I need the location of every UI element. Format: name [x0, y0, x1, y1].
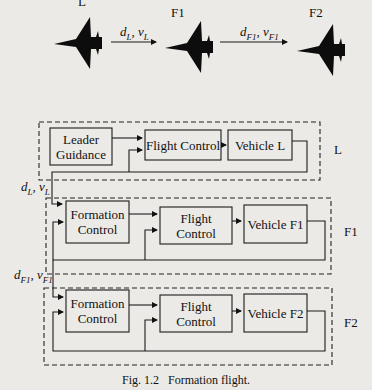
input-label-f2: dF1, vF1 [14, 268, 53, 285]
vehicle-f2-text: Vehicle F2 [244, 294, 307, 332]
group-label-l: L [334, 143, 342, 156]
plane-label-f1: F1 [171, 6, 185, 19]
formation-control-f2-text: FormationControl [66, 290, 129, 332]
plane-label-f2: F2 [309, 6, 323, 19]
group-label-f2: F2 [344, 316, 358, 329]
leader-guidance-text: LeaderGuidance [50, 128, 112, 165]
group-label-f1: F1 [344, 225, 358, 238]
figure-caption: Fig. 1.2 Formation flight. [122, 374, 250, 386]
flight-control-l-text: Flight Control [145, 130, 221, 160]
arrow-label-f1-f2: dF1, vF1 [240, 25, 279, 42]
vehicle-f1-text: Vehicle F1 [244, 205, 307, 243]
formation-control-f1-text: FormationControl [66, 201, 129, 243]
flight-control-f2-text: Flight Control [160, 295, 232, 332]
vehicle-l-text: Vehicle L [228, 130, 292, 160]
plane-label-l: L [78, 0, 86, 8]
arrow-label-l-f1: dL, vL [120, 25, 149, 42]
follower2-plane-icon [297, 24, 345, 76]
follower1-plane-icon [165, 21, 213, 73]
flight-control-f1-text: Flight Control [160, 207, 232, 244]
input-label-f1: dL, vL [21, 180, 50, 197]
leader-plane-icon [54, 17, 102, 69]
